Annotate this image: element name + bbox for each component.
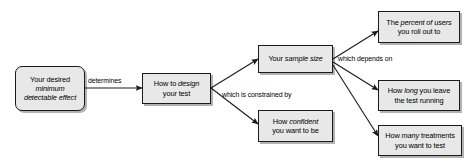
node-how-many-treatments[interactable]: How many treatmentsyou want to test: [378, 125, 462, 156]
node-your-sample-size-label: Your sample size: [259, 54, 332, 63]
node-how-confident-you-want-to-be-label: How confidentyou want to be: [259, 117, 332, 135]
edge-label-which-is-constrained-by: which is constrained by: [222, 91, 291, 99]
node-how-to-design-your-test-label: How to designyour test: [143, 79, 210, 97]
node-how-long-test-running-label: How long you leavethe test running: [379, 86, 459, 104]
edge-design-to-sample-size: [211, 59, 258, 88]
node-how-long-test-running[interactable]: How long you leavethe test running: [378, 80, 460, 111]
node-how-many-treatments-label: How many treatmentsyou want to test: [379, 131, 461, 149]
node-percent-of-users-label: The percent of usersyou roll out to: [379, 18, 459, 36]
node-how-confident-you-want-to-be[interactable]: How confidentyou want to be: [258, 110, 333, 142]
node-how-to-design-your-test[interactable]: How to designyour test: [142, 73, 211, 104]
edge-label-which-depends-on: which depends on: [338, 55, 392, 63]
node-your-sample-size[interactable]: Your sample size: [258, 45, 333, 73]
flowchart-diagram: Your desiredminimumdetectable effect How…: [0, 0, 471, 166]
node-minimum-detectable-effect[interactable]: Your desiredminimumdetectable effect: [15, 66, 85, 111]
edge-label-determines: determines: [88, 77, 121, 85]
node-percent-of-users[interactable]: The percent of usersyou roll out to: [378, 11, 460, 43]
node-minimum-detectable-effect-label: Your desiredminimumdetectable effect: [16, 75, 84, 103]
